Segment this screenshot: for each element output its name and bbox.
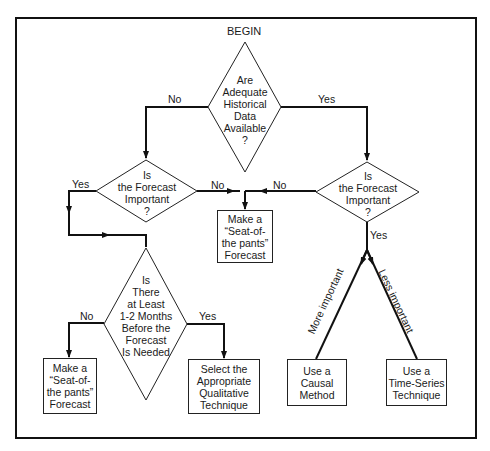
decision-forecast-important-left: Is the Forecast Important ? (106, 169, 188, 217)
decision-historical-data: Are Adequate Historical Data Available ? (205, 74, 285, 146)
edge-label-left-yes: Yes (72, 178, 89, 190)
action-seat-of-pants-middle: Make a “Seat-of- the pants” Forecast (217, 210, 273, 263)
edge-top-yes (281, 107, 367, 160)
begin-label: BEGIN (227, 25, 261, 37)
edge-label-right-yes: Yes (370, 229, 387, 241)
edge-less-important-arrow (367, 250, 373, 264)
edge-label-lead-yes: Yes (199, 310, 216, 322)
decision-lead-time: Is There at Least 1-2 Months Before the … (106, 274, 186, 358)
action-seat-of-pants-bottom: Make a “Seat-of- the pants” Forecast (43, 358, 97, 414)
action-causal-method: Use a Causal Method (287, 359, 347, 406)
action-select-qualitative: Select the Appropriate Qualitative Techn… (188, 359, 260, 414)
edge-label-top-no: No (168, 93, 181, 105)
edge-more-important-arrow (361, 250, 367, 264)
edge-lead-no (69, 323, 104, 357)
edge-top-no (146, 107, 208, 158)
edge-label-left-no: No (211, 179, 224, 191)
edge-lead-yes (187, 324, 224, 358)
action-time-series: Use a Time-Series Technique (386, 359, 447, 406)
decision-forecast-important-right: Is the Forecast Important ? (327, 170, 409, 218)
edge-label-right-no: No (273, 179, 286, 191)
edge-label-lead-no: No (80, 310, 93, 322)
edge-label-top-yes: Yes (318, 93, 335, 105)
